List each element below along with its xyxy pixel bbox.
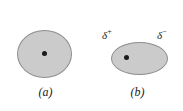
panel-b: δ+ δ− (b)	[92, 0, 183, 111]
panel-a: (a)	[0, 0, 91, 111]
figure-container: (a) δ+ δ− (b)	[0, 0, 183, 111]
caption-b: (b)	[92, 86, 183, 98]
electron-cloud-ellipse	[111, 42, 168, 75]
delta-plus-sign: +	[107, 27, 112, 36]
nucleus-dot-a	[42, 51, 47, 56]
nucleus-dot-b	[124, 55, 129, 60]
delta-minus-label: δ−	[157, 28, 167, 41]
caption-a: (a)	[0, 86, 91, 98]
delta-minus-sign: −	[162, 27, 167, 36]
delta-plus-label: δ+	[102, 28, 112, 41]
